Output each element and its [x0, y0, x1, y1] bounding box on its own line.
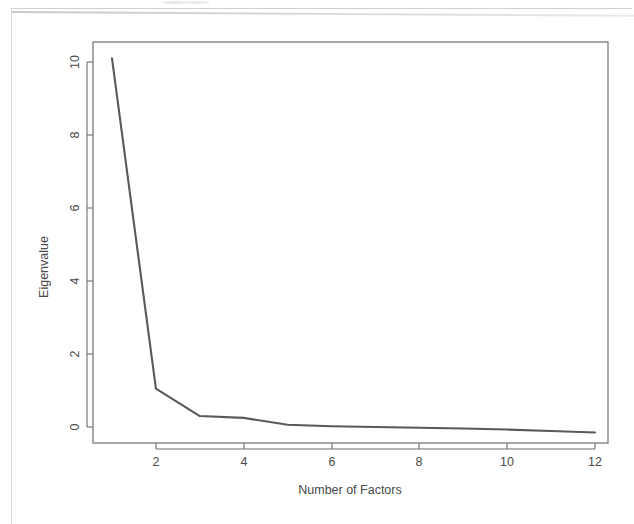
eigenvalue-scree-line — [112, 58, 595, 432]
x-axis-title: Number of Factors — [298, 483, 402, 497]
x-tick-label-2: 2 — [153, 455, 160, 469]
scree-plot-figure: 0 2 4 6 8 10 2 4 6 8 10 12 Number of F — [0, 0, 634, 524]
y-tick-label-2: 2 — [68, 350, 82, 357]
plot-panel-border — [93, 42, 608, 443]
y-tick-label-8: 8 — [68, 131, 82, 138]
y-axis-title: Eigenvalue — [37, 236, 51, 298]
y-axis-tick-labels: 0 2 4 6 8 10 — [68, 55, 82, 430]
x-tick-label-10: 10 — [500, 455, 514, 469]
y-tick-label-4: 4 — [68, 277, 82, 284]
x-tick-label-6: 6 — [329, 455, 336, 469]
x-axis-ticks — [156, 443, 595, 449]
scree-plot-svg: 0 2 4 6 8 10 2 4 6 8 10 12 Number of F — [0, 0, 634, 524]
x-tick-label-4: 4 — [241, 455, 248, 469]
y-tick-label-6: 6 — [68, 204, 82, 211]
y-tick-label-0: 0 — [68, 423, 82, 430]
y-tick-label-10: 10 — [68, 55, 82, 69]
x-tick-label-12: 12 — [588, 455, 602, 469]
x-axis-tick-labels: 2 4 6 8 10 12 — [153, 455, 602, 469]
x-tick-label-8: 8 — [416, 455, 423, 469]
y-axis-ticks — [87, 62, 93, 427]
